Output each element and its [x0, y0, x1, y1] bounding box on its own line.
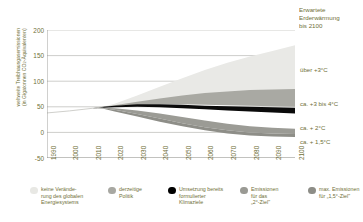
y-tick-200: 200 [20, 27, 44, 34]
corner-title-line2: Erderwärmung [299, 14, 363, 22]
legend-item-4[interactable]: max. Emissionen für „1,5°-Ziel" [308, 186, 359, 199]
legend-label: keine Verände- rung des globalen Energie… [41, 186, 83, 206]
y-axis-caption-line2: (in Gigatonnen CO2-Äquivalenten) [21, 28, 27, 106]
corner-title-line3: bis 2100 [299, 22, 363, 30]
legend-swatch-icon [30, 187, 38, 195]
legend-swatch-icon [168, 187, 176, 195]
legend-item-2[interactable]: Umsetzung bereits formulierter Klimaziel… [168, 186, 223, 206]
x-tick-2030: 2030 [140, 146, 147, 160]
legend-item-3[interactable]: Emissionen für das „2°-Ziel" [240, 186, 278, 206]
band-label-0: über +3°C [300, 66, 328, 73]
y-tick-100: 100 [20, 78, 44, 85]
legend-label: max. Emissionen für „1,5°-Ziel" [319, 186, 359, 199]
legend-swatch-icon [240, 187, 248, 195]
legend-label: Umsetzung bereits formulierter Klimaziel… [179, 186, 223, 206]
legend-item-0[interactable]: keine Verände- rung des globalen Energie… [30, 186, 83, 206]
x-tick-2070: 2070 [230, 146, 237, 160]
plot-area [47, 30, 295, 158]
legend-swatch-icon [308, 187, 316, 195]
y-tick-0: 0 [20, 129, 44, 136]
corner-title-line1: Erwartete [299, 6, 363, 14]
x-tick-2010: 2010 [95, 146, 102, 160]
y-tick-150: 150 [20, 52, 44, 59]
y-tick-50: 50 [20, 103, 44, 110]
x-tick-2040: 2040 [162, 146, 169, 160]
chart-canvas [47, 30, 295, 158]
band-label-2: ca. + 2°C [300, 124, 325, 131]
x-tick-2080: 2080 [253, 146, 260, 160]
legend-label: derzeitige Politik [119, 186, 142, 199]
legend-swatch-icon [108, 187, 116, 195]
legend-item-1[interactable]: derzeitige Politik [108, 186, 142, 199]
y-tick--50: -50 [20, 155, 44, 162]
x-tick-2100: 2100 [298, 146, 305, 160]
chart-root: Erwartete Erderwärmung bis 2100 weltweit… [0, 0, 363, 222]
band-label-3: ca. + 1,5°C [300, 138, 330, 145]
legend-label: Emissionen für das „2°-Ziel" [251, 186, 278, 206]
x-tick-2000: 2000 [72, 146, 79, 160]
band-label-1: ca. +3 bis 4°C [300, 100, 338, 107]
chart-corner-title: Erwartete Erderwärmung bis 2100 [299, 6, 363, 31]
x-tick-1990: 1990 [50, 146, 57, 160]
x-tick-2050: 2050 [185, 146, 192, 160]
x-tick-2020: 2020 [117, 146, 124, 160]
x-tick-2090: 2090 [275, 146, 282, 160]
chart-legend: keine Verände- rung des globalen Energie… [30, 186, 363, 220]
y-axis-caption-line1: weltweite Treibhausgasemissionen [15, 28, 21, 107]
x-tick-2060: 2060 [207, 146, 214, 160]
